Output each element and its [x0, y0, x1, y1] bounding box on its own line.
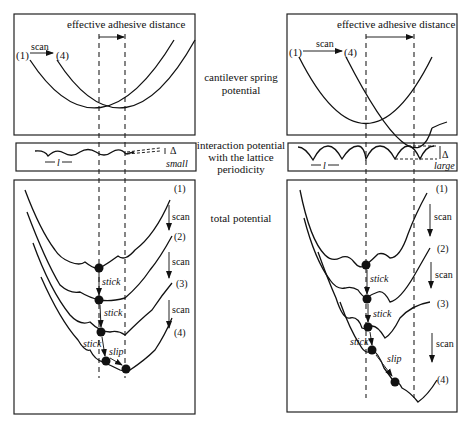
left-scan-down-label-2: scan	[172, 256, 190, 267]
right-total-curve-3	[318, 252, 430, 338]
right-period-label: l	[323, 160, 326, 171]
right-ball-1	[362, 261, 371, 270]
cantilever-label-line2: potential	[222, 84, 261, 96]
left-total-curve-1	[25, 190, 170, 268]
right-header-label: effective adhesive distance	[337, 18, 455, 30]
right-ball-4	[368, 346, 377, 355]
right-ball-2	[363, 295, 372, 304]
right-curve-label-1: (1)	[436, 183, 448, 195]
right-slip-label: slip	[387, 353, 401, 364]
right-ball-3	[364, 323, 373, 332]
left-stick-label-1: stick	[102, 276, 121, 287]
left-curve-label-2: (2)	[174, 231, 186, 243]
left-delta-label: Δ	[170, 145, 177, 156]
interaction-label-line1: interaction potential	[197, 139, 285, 151]
cantilever-label-line1: cantilever spring	[204, 71, 278, 83]
right-scan-label: scan	[316, 38, 334, 49]
left-header-label: effective adhesive distance	[67, 18, 185, 30]
left-curve-label-3: (3)	[176, 278, 188, 290]
left-ball-4	[102, 357, 111, 366]
right-scan-down-label-2: scan	[435, 269, 453, 280]
left-scan-down-label-3: scan	[172, 304, 190, 315]
left-total-curve-3	[33, 243, 172, 335]
right-ball-slip	[391, 378, 400, 387]
right-delta-label: Δ	[442, 149, 449, 160]
right-stick-label-1: stick	[370, 273, 389, 284]
left-amplitude-label: small	[166, 158, 188, 169]
left-stick-arrow-2	[100, 305, 101, 327]
left-curve-label-4: (4)	[174, 327, 186, 339]
right-start-label: (1)	[289, 46, 302, 59]
left-slip-label: slip	[109, 346, 123, 357]
right-interaction-box	[288, 143, 457, 171]
right-scan-down-label-1: scan	[434, 211, 452, 222]
right-curve-label-2: (2)	[437, 243, 449, 255]
left-ball-1	[95, 264, 104, 273]
left-panel: effective adhesive distance (1) scan (4)…	[14, 14, 196, 414]
right-panel: effective adhesive distance (1) scan (4)…	[287, 14, 457, 412]
left-stick-label-2: stick	[104, 307, 123, 318]
left-delta-dashes	[127, 148, 160, 154]
row-labels: cantilever spring potential interaction …	[197, 71, 285, 224]
left-lattice-wave	[35, 150, 134, 157]
left-scan-label: scan	[31, 41, 49, 52]
left-slip-arrow	[110, 358, 122, 365]
left-period-label: l	[57, 157, 60, 168]
interaction-label-line3: periodicity	[217, 163, 265, 175]
right-cantilever-box	[287, 14, 457, 135]
right-stick-label-3: stick	[350, 336, 369, 347]
right-total-potential-box	[287, 180, 457, 412]
left-stick-label-3: stick	[83, 338, 102, 349]
left-start-label: (1)	[16, 49, 29, 62]
left-parabola-4	[57, 40, 195, 108]
left-ball-3	[97, 328, 106, 337]
right-scan-down-label-3: scan	[436, 338, 454, 349]
right-stick-label-2: stick	[373, 308, 392, 319]
right-parabola-4-tail	[432, 122, 447, 128]
right-parabola-4	[346, 57, 432, 148]
interaction-label-line2: with the lattice	[208, 151, 273, 163]
left-ball-2	[95, 296, 104, 305]
left-scan-down-label-1: scan	[172, 211, 190, 222]
left-stick-arrow-3	[102, 337, 105, 356]
left-curve-label-1: (1)	[174, 183, 186, 195]
right-stick-arrow-3	[370, 332, 372, 345]
right-curve-label-4: (4)	[437, 374, 449, 386]
right-amplitude-label: large	[434, 160, 455, 171]
left-parabola-1	[30, 40, 174, 108]
stick-slip-diagram: effective adhesive distance (1) scan (4)…	[0, 0, 472, 426]
right-curve-label-3: (3)	[437, 298, 449, 310]
left-ball-slip	[122, 365, 131, 374]
total-potential-label: total potential	[211, 212, 272, 224]
left-end-label: (4)	[56, 49, 69, 62]
left-total-potential-box	[14, 180, 195, 414]
